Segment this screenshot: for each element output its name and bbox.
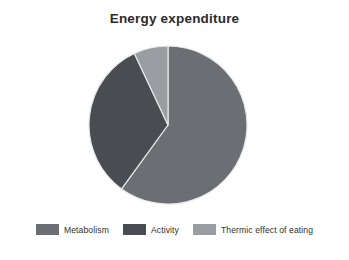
- chart-title: Energy expenditure: [0, 11, 349, 26]
- legend-item-thermic-effect-of-eating[interactable]: Thermic effect of eating: [193, 224, 313, 235]
- pie-chart-svg: [88, 45, 248, 205]
- legend-swatch-activity: [123, 224, 146, 235]
- pie-slices: [89, 46, 247, 204]
- legend-item-activity[interactable]: Activity: [123, 224, 179, 235]
- chart-legend: Metabolism Activity Thermic effect of ea…: [0, 224, 349, 235]
- legend-label-activity: Activity: [151, 225, 179, 235]
- legend-item-metabolism[interactable]: Metabolism: [36, 224, 109, 235]
- legend-swatch-thermic-effect-of-eating: [193, 224, 216, 235]
- pie-chart: [88, 45, 248, 205]
- legend-label-metabolism: Metabolism: [64, 225, 109, 235]
- chart-figure: Energy expenditure Metabolism Activity T…: [0, 0, 349, 260]
- legend-label-thermic-effect-of-eating: Thermic effect of eating: [221, 225, 313, 235]
- legend-swatch-metabolism: [36, 224, 59, 235]
